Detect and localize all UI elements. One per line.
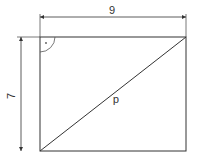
diagonal-label: d [113,95,119,107]
rectangle-diagram: 9 7 d [0,0,199,164]
width-label: 9 [109,4,115,16]
diagonal-line [40,37,186,151]
right-angle-arc [40,37,55,52]
right-angle-dot [45,42,47,44]
height-label: 7 [5,93,17,99]
